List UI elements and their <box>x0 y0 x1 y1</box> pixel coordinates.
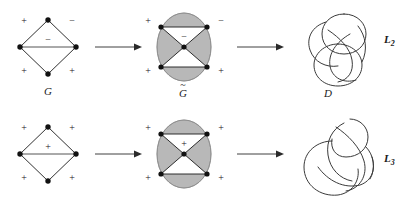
tilde-sign-bottom-right: + <box>218 65 224 76</box>
link-label-index: 3 <box>391 158 395 167</box>
tilde-vertex-center <box>181 44 186 49</box>
tilde-sign-top-left: + <box>145 15 151 26</box>
tilde-sign-middle: + <box>181 138 187 149</box>
tilde-sign-bottom-left: + <box>145 65 151 76</box>
label-G: G <box>44 86 52 97</box>
graph-vertex-top <box>45 124 50 129</box>
sign-top-right: − <box>69 15 75 26</box>
tilde-vertex-top-right <box>204 131 209 136</box>
figure-canvas: + − − + + G <box>0 0 420 213</box>
tilde-sign-top-right: − <box>218 15 224 26</box>
graph-vertex-bottom <box>45 71 50 76</box>
graph-vertex-left <box>17 44 22 49</box>
graph-vertex-right <box>73 44 78 49</box>
sign-top-left: + <box>21 122 27 133</box>
tilde-vertex-top-left <box>158 24 163 29</box>
sign-middle: − <box>45 34 51 45</box>
sign-bottom-right: + <box>69 65 75 76</box>
figure-row-bottom: + + + + + <box>0 107 420 213</box>
tilde-vertex-top-right <box>204 24 209 29</box>
tilde-sign-middle: − <box>181 31 187 42</box>
graph-vertex-left <box>17 151 22 156</box>
link-label-index: 2 <box>391 39 395 48</box>
sign-bottom-left: + <box>21 172 27 183</box>
link-label-L2: L2 <box>384 34 395 48</box>
tilde-sign-top-left: + <box>145 122 151 133</box>
link-label-L3: L3 <box>384 153 395 167</box>
tilde-vertex-bottom-left <box>158 171 163 176</box>
label-D: D <box>324 88 332 99</box>
graph-vertex-right <box>73 151 78 156</box>
sign-top-left: + <box>21 15 27 26</box>
graph-vertex-bottom <box>45 178 50 183</box>
tilde-vertex-bottom-right <box>204 64 209 69</box>
link-label-base: L <box>384 152 391 164</box>
tilde-accent: ~ <box>180 80 185 90</box>
graph-vertex-top <box>45 17 50 22</box>
link-label-base: L <box>384 33 391 45</box>
sign-bottom-right: + <box>69 172 75 183</box>
tilde-sign-bottom-left: + <box>145 172 151 183</box>
tilde-vertex-center <box>181 151 186 156</box>
link-diagram-bottom-svg <box>278 107 420 213</box>
sign-bottom-left: + <box>21 65 27 76</box>
tilde-vertex-bottom-left <box>158 64 163 69</box>
label-G-tilde: ~ G <box>179 88 187 99</box>
tilde-vertex-bottom-right <box>204 171 209 176</box>
figure-row-top: + − − + + G <box>0 0 420 106</box>
link-diagram-D: D L2 <box>278 0 420 106</box>
tilde-sign-top-right: + <box>218 122 224 133</box>
sign-top-right: + <box>69 122 75 133</box>
tilde-vertex-top-left <box>158 131 163 136</box>
sign-middle: + <box>45 141 51 152</box>
tilde-sign-bottom-right: + <box>218 172 224 183</box>
link-diagram-D-svg <box>278 0 420 106</box>
link-diagram-bottom: L3 <box>278 107 420 213</box>
